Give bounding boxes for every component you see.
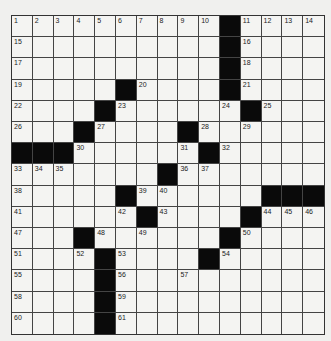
grid-cell[interactable] (158, 37, 179, 58)
grid-cell[interactable] (199, 313, 220, 334)
grid-cell[interactable] (74, 270, 95, 291)
grid-cell[interactable] (262, 80, 283, 101)
grid-cell[interactable] (303, 228, 324, 249)
grid-cell[interactable] (303, 249, 324, 270)
grid-cell[interactable]: 27 (95, 122, 116, 143)
grid-cell[interactable]: 47 (12, 228, 33, 249)
grid-cell[interactable] (282, 292, 303, 313)
grid-cell[interactable] (116, 37, 137, 58)
grid-cell[interactable]: 33 (12, 164, 33, 185)
grid-cell[interactable]: 35 (54, 164, 75, 185)
grid-cell[interactable] (158, 80, 179, 101)
grid-cell[interactable]: 3 (54, 16, 75, 37)
grid-cell[interactable]: 23 (116, 101, 137, 122)
grid-cell[interactable] (303, 58, 324, 79)
grid-cell[interactable] (33, 37, 54, 58)
grid-cell[interactable]: 30 (74, 143, 95, 164)
grid-cell[interactable]: 53 (116, 249, 137, 270)
grid-cell[interactable] (95, 80, 116, 101)
grid-cell[interactable] (199, 37, 220, 58)
grid-cell[interactable]: 28 (199, 122, 220, 143)
grid-cell[interactable]: 2 (33, 16, 54, 37)
grid-cell[interactable]: 16 (241, 37, 262, 58)
grid-cell[interactable]: 14 (303, 16, 324, 37)
grid-cell[interactable] (137, 313, 158, 334)
grid-cell[interactable]: 21 (241, 80, 262, 101)
grid-cell[interactable] (262, 292, 283, 313)
grid-cell[interactable] (282, 228, 303, 249)
grid-cell[interactable] (33, 80, 54, 101)
grid-cell[interactable] (303, 292, 324, 313)
grid-cell[interactable]: 61 (116, 313, 137, 334)
grid-cell[interactable] (262, 164, 283, 185)
grid-cell[interactable] (33, 207, 54, 228)
grid-cell[interactable]: 36 (178, 164, 199, 185)
grid-cell[interactable] (137, 37, 158, 58)
grid-cell[interactable]: 42 (116, 207, 137, 228)
grid-cell[interactable]: 20 (137, 80, 158, 101)
grid-cell[interactable] (74, 80, 95, 101)
grid-cell[interactable]: 56 (116, 270, 137, 291)
grid-cell[interactable] (303, 313, 324, 334)
grid-cell[interactable] (158, 122, 179, 143)
grid-cell[interactable]: 34 (33, 164, 54, 185)
grid-cell[interactable] (199, 186, 220, 207)
grid-cell[interactable]: 44 (262, 207, 283, 228)
grid-cell[interactable] (241, 186, 262, 207)
grid-cell[interactable] (158, 270, 179, 291)
grid-cell[interactable]: 25 (262, 101, 283, 122)
grid-cell[interactable] (116, 122, 137, 143)
grid-cell[interactable] (158, 249, 179, 270)
grid-cell[interactable]: 10 (199, 16, 220, 37)
grid-cell[interactable]: 58 (12, 292, 33, 313)
grid-cell[interactable] (74, 164, 95, 185)
grid-cell[interactable] (54, 292, 75, 313)
grid-cell[interactable] (241, 143, 262, 164)
grid-cell[interactable] (178, 80, 199, 101)
grid-cell[interactable] (178, 249, 199, 270)
grid-cell[interactable] (282, 313, 303, 334)
grid-cell[interactable] (199, 207, 220, 228)
grid-cell[interactable] (54, 313, 75, 334)
grid-cell[interactable] (178, 186, 199, 207)
grid-cell[interactable] (262, 313, 283, 334)
grid-cell[interactable] (74, 37, 95, 58)
grid-cell[interactable] (303, 37, 324, 58)
grid-cell[interactable] (262, 270, 283, 291)
grid-cell[interactable] (116, 164, 137, 185)
grid-cell[interactable]: 41 (12, 207, 33, 228)
grid-cell[interactable]: 51 (12, 249, 33, 270)
grid-cell[interactable] (262, 143, 283, 164)
grid-cell[interactable] (33, 313, 54, 334)
grid-cell[interactable] (95, 207, 116, 228)
grid-cell[interactable] (220, 186, 241, 207)
grid-cell[interactable]: 4 (74, 16, 95, 37)
grid-cell[interactable] (220, 207, 241, 228)
grid-cell[interactable] (54, 270, 75, 291)
grid-cell[interactable] (282, 37, 303, 58)
grid-cell[interactable] (220, 313, 241, 334)
grid-cell[interactable] (262, 228, 283, 249)
grid-cell[interactable]: 5 (95, 16, 116, 37)
grid-cell[interactable] (241, 249, 262, 270)
grid-cell[interactable]: 29 (241, 122, 262, 143)
grid-cell[interactable] (54, 207, 75, 228)
grid-cell[interactable]: 48 (95, 228, 116, 249)
grid-cell[interactable] (220, 122, 241, 143)
grid-cell[interactable] (158, 58, 179, 79)
grid-cell[interactable] (137, 270, 158, 291)
grid-cell[interactable] (178, 207, 199, 228)
grid-cell[interactable] (262, 58, 283, 79)
grid-cell[interactable] (282, 122, 303, 143)
grid-cell[interactable]: 43 (158, 207, 179, 228)
grid-cell[interactable] (54, 228, 75, 249)
grid-cell[interactable] (54, 80, 75, 101)
grid-cell[interactable]: 37 (199, 164, 220, 185)
grid-cell[interactable] (54, 37, 75, 58)
grid-cell[interactable] (33, 122, 54, 143)
grid-cell[interactable] (262, 249, 283, 270)
grid-cell[interactable] (54, 101, 75, 122)
grid-cell[interactable]: 31 (178, 143, 199, 164)
grid-cell[interactable] (199, 80, 220, 101)
grid-cell[interactable] (178, 228, 199, 249)
